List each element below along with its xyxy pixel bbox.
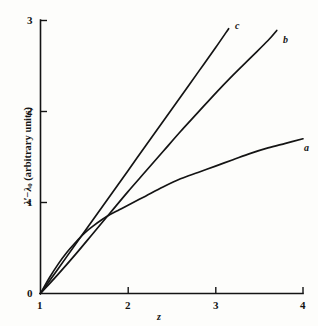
y-axis-subscript-zero: 0 <box>26 183 34 187</box>
curve-c <box>41 29 229 294</box>
x-tick-label-1: 1 <box>37 300 43 311</box>
y-axis-units: (arbitrary units) <box>22 107 33 181</box>
axis-lines <box>40 20 303 294</box>
curve-a <box>41 139 304 294</box>
y-axis-symbol-lambda-prime: λ′ <box>22 197 33 205</box>
y-tick-label-0: 0 <box>27 288 33 299</box>
x-axis-title: z <box>0 311 318 322</box>
y-axis-symbol-lambda: λ <box>22 187 33 192</box>
x-tick-label-4: 4 <box>300 300 306 311</box>
curve-label-c: c <box>235 21 239 31</box>
y-axis-minus: − <box>22 192 33 198</box>
curve-label-a: a <box>304 143 309 153</box>
y-tick-label-3: 3 <box>27 15 33 26</box>
curve-b <box>41 31 277 294</box>
x-tick-label-3: 3 <box>213 300 219 311</box>
chart-canvas <box>0 0 318 326</box>
data-curves <box>41 29 304 294</box>
axis-ticks <box>41 21 304 294</box>
figure-chart: 3 2 1 0 1 2 3 4 c b a z λ′−λ0 (arbitrary… <box>0 0 318 326</box>
x-tick-label-2: 2 <box>125 300 131 311</box>
y-axis-title: λ′−λ0 (arbitrary units) <box>22 46 34 266</box>
curve-label-b: b <box>283 35 288 45</box>
